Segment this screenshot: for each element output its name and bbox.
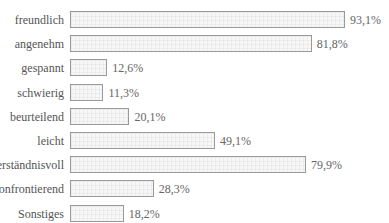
- bar-row: angenehm81,8%: [0, 34, 389, 54]
- category-label: freundlich: [15, 10, 64, 30]
- category-label: konfrontierend: [0, 179, 64, 199]
- value-label: 11,3%: [108, 83, 139, 103]
- value-label: 81,8%: [317, 34, 348, 54]
- value-label: 28,3%: [159, 179, 190, 199]
- category-label: beurteilend: [10, 107, 64, 127]
- bar-row: beurteilend20,1%: [0, 107, 389, 127]
- category-label: leicht: [37, 131, 64, 151]
- value-label: 79,9%: [311, 155, 342, 175]
- bar: [70, 180, 154, 197]
- category-label: gespannt: [21, 58, 64, 78]
- category-label: Sonstiges: [18, 204, 64, 223]
- bar: [70, 35, 312, 52]
- bar: [70, 84, 103, 101]
- bar: [70, 59, 107, 76]
- bar: [70, 156, 306, 173]
- value-label: 20,1%: [134, 107, 165, 127]
- category-label: schwierig: [17, 83, 64, 103]
- bar-row: gespannt12,6%: [0, 58, 389, 78]
- bar-row: freundlich93,1%: [0, 10, 389, 30]
- category-label: angenehm: [15, 34, 64, 54]
- value-label: 12,6%: [112, 58, 143, 78]
- bar: [70, 205, 124, 222]
- bar: [70, 11, 345, 28]
- value-label: 18,2%: [129, 204, 160, 223]
- value-label: 93,1%: [350, 10, 381, 30]
- bar-row: schwierig11,3%: [0, 83, 389, 103]
- bar: [70, 132, 215, 149]
- horizontal-bar-chart: freundlich93,1%angenehm81,8%gespannt12,6…: [0, 0, 389, 223]
- bar-row: leicht49,1%: [0, 131, 389, 151]
- category-label: verständnisvoll: [0, 155, 64, 175]
- value-label: 49,1%: [220, 131, 251, 151]
- bar-row: Sonstiges18,2%: [0, 204, 389, 223]
- bar-row: konfrontierend28,3%: [0, 179, 389, 199]
- bar: [70, 108, 129, 125]
- bar-row: verständnisvoll79,9%: [0, 155, 389, 175]
